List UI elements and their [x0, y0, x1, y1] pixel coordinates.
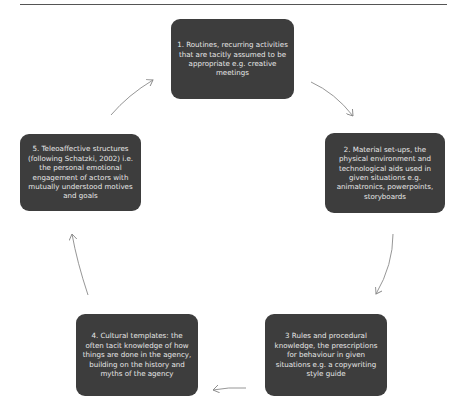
- arrow-4-to-5: [72, 234, 88, 295]
- arrows-layer: [0, 0, 461, 410]
- arrow-1-to-2: [311, 82, 353, 116]
- arrow-5-to-1: [111, 80, 153, 115]
- arrow-2-to-3: [376, 234, 393, 294]
- arrow-3-to-4: [213, 388, 246, 390]
